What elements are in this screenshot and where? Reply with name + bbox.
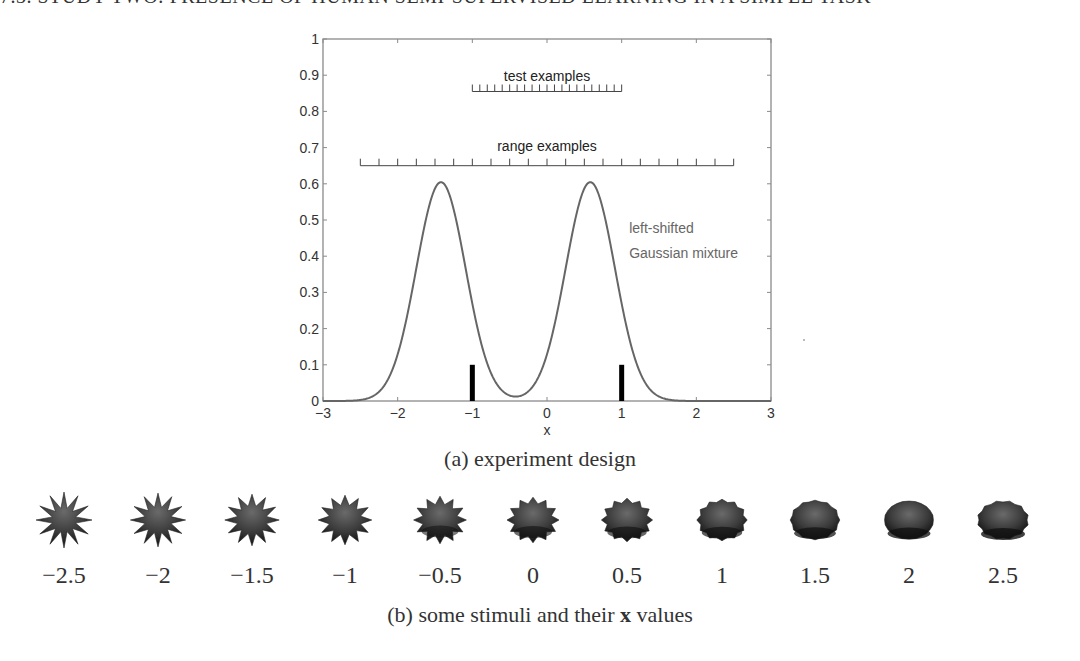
stimulus-shape-icon (126, 490, 190, 550)
y-tick-label: 0.7 (300, 140, 320, 156)
stimulus-item: 2 (862, 490, 956, 589)
stimulus-item: −2 (111, 490, 205, 589)
ruler-label: test examples (504, 68, 590, 84)
y-tick-label: 0.8 (300, 103, 320, 119)
stimulus-shape-icon (32, 490, 96, 550)
labeled-example-bars (470, 365, 624, 401)
x-tick-label: −1 (464, 405, 480, 421)
stimulus-item: −2.5 (17, 490, 111, 589)
ruler-label: range examples (497, 138, 597, 154)
stimulus-item: 0 (486, 490, 580, 589)
stimulus-x-value: −1.5 (205, 562, 299, 589)
caption-b-prefix: (b) some stimuli and their (387, 602, 620, 627)
stimulus-shape-icon (595, 490, 659, 550)
chart-annotations: test examplesrange examplesleft-shiftedG… (497, 68, 738, 261)
chart-axes: 00.10.20.30.40.50.60.70.80.91−3−2−10123x (300, 31, 776, 438)
stimulus-x-value: 2 (862, 562, 956, 589)
stimulus-shape-icon (971, 490, 1035, 550)
y-tick-label: 0.4 (300, 248, 320, 264)
mixture-chart: 00.10.20.30.40.50.60.70.80.91−3−2−10123x… (0, 0, 1080, 440)
stimulus-shape-icon (877, 490, 941, 550)
y-tick-label: 0.1 (300, 357, 320, 373)
stimulus-x-value: −2 (111, 562, 205, 589)
stimulus-item: 1.5 (768, 490, 862, 589)
stimulus-item: −1.5 (205, 490, 299, 589)
stimulus-shape-icon (313, 490, 377, 550)
stimulus-item: 2.5 (956, 490, 1050, 589)
stimulus-x-value: 0.5 (580, 562, 674, 589)
y-tick-label: 0.3 (300, 284, 320, 300)
stimulus-x-value: −0.5 (393, 562, 487, 589)
x-tick-label: 2 (692, 405, 700, 421)
stimulus-shape-icon (783, 490, 847, 550)
caption-b-suffix: values (631, 602, 693, 627)
x-tick-label: 3 (767, 405, 775, 421)
stimulus-x-value: 2.5 (956, 562, 1050, 589)
gaussian-mixture-line (323, 182, 771, 401)
scan-speck (803, 339, 805, 341)
stimulus-x-value: −2.5 (17, 562, 111, 589)
stimulus-item: 1 (675, 490, 769, 589)
y-tick-label: 0.6 (300, 176, 320, 192)
stimulus-item: −1 (298, 490, 392, 589)
stimulus-item: −0.5 (393, 490, 487, 589)
legend-label: Gaussian mixture (629, 245, 738, 261)
plot-frame (323, 39, 771, 401)
stimulus-shape-icon (501, 490, 565, 550)
labeled-example-bar (470, 365, 475, 401)
y-tick-label: 0.5 (300, 212, 320, 228)
y-tick-label: 0.2 (300, 321, 320, 337)
stimulus-shape-icon (220, 490, 284, 550)
stimuli-row: −2.5−2−1.5−1−0.500.511.522.5 (0, 490, 1080, 590)
caption-b-bold-x: x (620, 602, 631, 627)
stimulus-x-value: 1 (675, 562, 769, 589)
legend-label: left-shifted (629, 220, 694, 236)
caption-experiment-design: (a) experiment design (0, 446, 1080, 472)
y-tick-label: 0.9 (300, 67, 320, 83)
x-tick-label: −3 (315, 405, 331, 421)
stimulus-x-value: 0 (486, 562, 580, 589)
x-axis-label: x (544, 422, 551, 438)
stimulus-shape-icon (408, 490, 472, 550)
x-tick-label: 0 (543, 405, 551, 421)
mixture-curve (323, 182, 771, 401)
labeled-example-bar (619, 365, 624, 401)
stimulus-shape-icon (690, 490, 754, 550)
caption-stimuli: (b) some stimuli and their x values (0, 602, 1080, 628)
y-tick-label: 1 (311, 31, 319, 47)
stimulus-x-value: 1.5 (768, 562, 862, 589)
x-tick-label: −2 (390, 405, 406, 421)
stimulus-item: 0.5 (580, 490, 674, 589)
x-tick-label: 1 (618, 405, 626, 421)
stimulus-x-value: −1 (298, 562, 392, 589)
